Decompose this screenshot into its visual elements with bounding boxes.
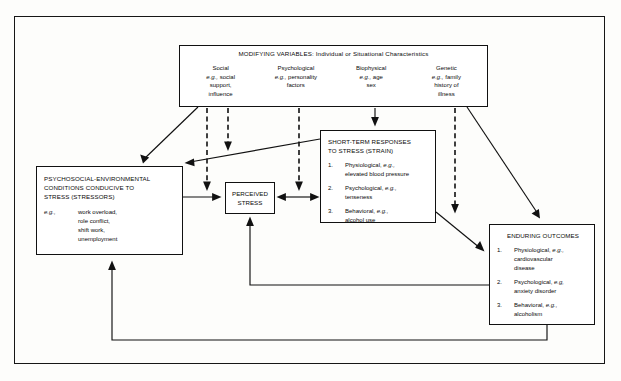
short-term-item-3: 3. Behavioral, e.g., alcohol use — [328, 207, 429, 224]
short-term-item-2: 2. Psychological, e.g., tenseness — [328, 184, 429, 201]
stressors-example-2: role conflict, — [78, 217, 117, 226]
short-term-item-1-detail: elevated blood pressure — [345, 170, 409, 179]
stressors-eg-label: e.g., — [44, 208, 78, 244]
enduring-item-2-body: Psychological, e.g, anxiety disorder — [514, 278, 564, 295]
column-social: Social e.g., social support, influence — [183, 64, 258, 98]
diagram-page: MODIFYING VARIABLES: Individual or Situa… — [0, 0, 621, 381]
perceived-stress-line2: STRESS — [238, 198, 263, 207]
stressors-example-4: unemployment — [78, 235, 117, 244]
enduring-item-2: 2. Psychological, e.g, anxiety disorder — [497, 278, 589, 295]
stressors-title-line3: STRESS (STRESSORS) — [44, 193, 175, 202]
column-genetic-line2: illness — [409, 90, 484, 99]
column-social-eg: e.g., social — [183, 73, 258, 82]
column-biophysical-name: Biophysical — [334, 64, 409, 73]
enduring-item-1-detail2: disease — [514, 264, 564, 273]
enduring-item-2-num: 2. — [497, 278, 514, 295]
column-psychological-name: Psychological — [258, 64, 333, 73]
column-social-name: Social — [183, 64, 258, 73]
column-psychological-eg: e.g., personality — [258, 73, 333, 82]
short-term-title: SHORT-TERM RESPONSES TO STRESS (STRAIN) — [328, 138, 429, 156]
modifying-variables-header: MODIFYING VARIABLES: Individual or Situa… — [180, 46, 487, 58]
column-social-line1: support, — [183, 81, 258, 90]
short-term-item-1-num: 1. — [328, 161, 345, 178]
enduring-item-1-detail: cardiovascular — [514, 255, 564, 264]
enduring-item-3-body: Behavioral, e.g., alcoholism — [514, 301, 557, 318]
enduring-item-2-detail: anxiety disorder — [514, 287, 564, 296]
short-term-item-2-detail: tenseness — [345, 193, 397, 202]
enduring-item-3-num: 3. — [497, 301, 514, 318]
stressors-title: PSYCHOSOCIAL-ENVIRONMENTAL CONDITIONS CO… — [44, 175, 175, 202]
modifying-variables-box: MODIFYING VARIABLES: Individual or Situa… — [179, 45, 488, 107]
perceived-stress-line1: PERCEIVED — [232, 189, 268, 198]
column-genetic-line1: history of — [409, 81, 484, 90]
short-term-item-1-head: Physiological, e.g., — [345, 161, 409, 170]
short-term-item-2-head: Psychological, e.g., — [345, 184, 397, 193]
stressors-example-list: work overload, role conflict, shift work… — [78, 208, 117, 244]
enduring-item-1-body: Physiological, e.g., cardiovascular dise… — [514, 246, 564, 272]
stressors-example-1: work overload, — [78, 208, 117, 217]
column-social-line2: influence — [183, 90, 258, 99]
perceived-stress-box: PERCEIVED STRESS — [225, 182, 275, 214]
enduring-outcomes-title: ENDURING OUTCOMES — [497, 232, 589, 241]
enduring-item-3-detail: alcoholism — [514, 310, 557, 319]
column-genetic-name: Genetic — [409, 64, 484, 73]
stressors-examples: e.g., work overload, role conflict, shif… — [44, 208, 175, 244]
short-term-responses-box: SHORT-TERM RESPONSES TO STRESS (STRAIN) … — [320, 130, 436, 223]
short-term-item-1: 1. Physiological, e.g., elevated blood p… — [328, 161, 429, 178]
short-term-title-line1: SHORT-TERM RESPONSES — [328, 138, 429, 147]
short-term-item-3-detail: alcohol use — [345, 216, 388, 225]
column-biophysical-eg: e.g., age — [334, 73, 409, 82]
short-term-item-3-head: Behavioral, e.g., — [345, 207, 388, 216]
modifying-columns: Social e.g., social support, influence P… — [180, 64, 487, 98]
column-biophysical-line1: sex — [334, 81, 409, 90]
short-term-item-2-body: Psychological, e.g., tenseness — [345, 184, 397, 201]
column-genetic: Genetic e.g., family history of illness — [409, 64, 484, 98]
column-genetic-eg: e.g., family — [409, 73, 484, 82]
enduring-item-1-head: Physiological, e.g., — [514, 246, 564, 255]
short-term-item-1-body: Physiological, e.g., elevated blood pres… — [345, 161, 409, 178]
enduring-item-1-num: 1. — [497, 246, 514, 272]
stressors-title-line1: PSYCHOSOCIAL-ENVIRONMENTAL — [44, 175, 175, 184]
stressors-box: PSYCHOSOCIAL-ENVIRONMENTAL CONDITIONS CO… — [36, 166, 183, 255]
enduring-outcomes-box: ENDURING OUTCOMES 1. Physiological, e.g.… — [489, 224, 595, 325]
short-term-item-3-num: 3. — [328, 207, 345, 224]
stressors-example-3: shift work, — [78, 226, 117, 235]
short-term-item-3-body: Behavioral, e.g., alcohol use — [345, 207, 388, 224]
enduring-item-2-head: Psychological, e.g, — [514, 278, 564, 287]
enduring-item-1: 1. Physiological, e.g., cardiovascular d… — [497, 246, 589, 272]
stressors-title-line2: CONDITIONS CONDUCIVE TO — [44, 184, 175, 193]
column-biophysical: Biophysical e.g., age sex — [334, 64, 409, 98]
short-term-title-line2: TO STRESS (STRAIN) — [328, 147, 429, 156]
enduring-item-3-head: Behavioral, e.g., — [514, 301, 557, 310]
enduring-item-3: 3. Behavioral, e.g., alcoholism — [497, 301, 589, 318]
short-term-item-2-num: 2. — [328, 184, 345, 201]
column-psychological: Psychological e.g., personality factors — [258, 64, 333, 98]
column-psychological-line1: factors — [258, 81, 333, 90]
